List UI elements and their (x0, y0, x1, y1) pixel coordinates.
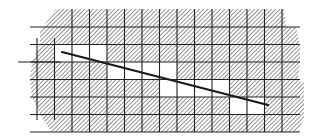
line-rasterization-diagram (0, 0, 312, 138)
white-cell (160, 80, 178, 98)
